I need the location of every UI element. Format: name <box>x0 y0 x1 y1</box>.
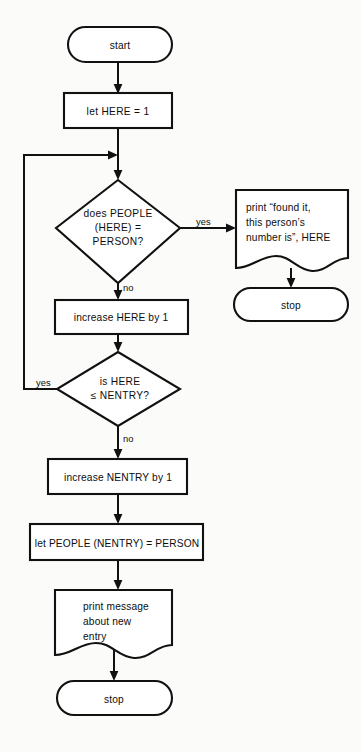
connector-layer <box>24 62 295 681</box>
check-people-label-line-3: PERSON? <box>93 236 144 247</box>
node-print-message[interactable]: print message about new entry <box>55 590 172 658</box>
stop-new-label: stop <box>104 694 124 705</box>
print-message-label-line-2: about new <box>83 616 132 627</box>
arrowhead-increase-nentry-to-let-people <box>114 514 123 524</box>
node-increase-nentry[interactable]: increase NENTRY by 1 <box>48 459 187 494</box>
let-here-label: let HERE = 1 <box>87 106 150 117</box>
check-nentry-decision-shape <box>57 352 180 426</box>
increase-nentry-label: increase NENTRY by 1 <box>64 472 172 483</box>
print-message-label-line-3: entry <box>83 631 107 642</box>
arrowhead-print-found-to-stop <box>287 278 296 288</box>
arrowhead-check-people-yes <box>226 224 236 233</box>
print-found-label-line-1: print “found it, <box>246 202 311 213</box>
node-start[interactable]: start <box>68 27 172 62</box>
print-found-label-line-2: this person’s <box>246 217 305 228</box>
check-people-label-line-2: (HERE) = <box>95 222 141 233</box>
edge-label-check-nentry-no: no <box>123 433 134 444</box>
arrowhead-let-here-to-check-people <box>114 170 123 180</box>
node-let-here[interactable]: let HERE = 1 <box>64 93 172 128</box>
edge-label-check-people-yes: yes <box>196 216 211 227</box>
node-stop-found[interactable]: stop <box>234 288 348 321</box>
node-stop-new[interactable]: stop <box>57 681 172 715</box>
increase-here-label: increase HERE by 1 <box>74 312 169 323</box>
stop-found-label: stop <box>281 300 301 311</box>
start-label: start <box>110 40 131 51</box>
check-people-label-line-1: does PEOPLE <box>84 208 153 219</box>
edge-label-check-people-no: no <box>123 282 134 293</box>
node-check-nentry[interactable]: is HERE ≤ NENTRY? <box>57 352 180 426</box>
node-check-people[interactable]: does PEOPLE (HERE) = PERSON? <box>56 180 180 283</box>
check-nentry-label-line-1: is HERE <box>100 376 141 387</box>
flowchart-canvas: start let HERE = 1 does PEOPLE (HERE) = … <box>0 0 361 752</box>
arrowhead-check-nentry-no <box>114 449 123 459</box>
edge-label-check-nentry-yes: yes <box>36 377 51 388</box>
flowchart-svg: start let HERE = 1 does PEOPLE (HERE) = … <box>0 0 361 752</box>
arrowhead-check-people-no <box>114 290 123 300</box>
arrowhead-loop-back-nentry-yes <box>108 151 118 160</box>
arrowhead-let-people-to-print-message <box>114 580 123 590</box>
arrowhead-print-message-to-stop <box>110 671 119 681</box>
check-nentry-label-line-2: ≤ NENTRY? <box>91 390 150 401</box>
node-print-found[interactable]: print “found it, this person’s number is… <box>236 190 348 271</box>
print-found-label-line-3: number is”, HERE <box>246 232 331 243</box>
let-people-label: let PEOPLE (NENTRY) = PERSON <box>35 538 200 549</box>
arrowhead-increase-here-to-check-nentry <box>114 342 123 352</box>
node-increase-here[interactable]: increase HERE by 1 <box>55 300 188 334</box>
connector-loop-back-nentry-yes <box>24 155 109 389</box>
node-let-people[interactable]: let PEOPLE (NENTRY) = PERSON <box>30 524 203 560</box>
print-message-label-line-1: print message <box>83 601 149 612</box>
